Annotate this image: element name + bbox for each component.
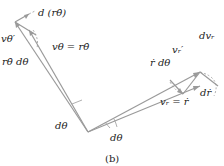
label-v-theta-eq: vθ = rθ̇ bbox=[52, 42, 89, 52]
v-theta-prime-vector bbox=[15, 22, 88, 132]
label-dtheta-right: dθ bbox=[110, 133, 122, 143]
label-dtheta-left: dθ bbox=[55, 121, 67, 131]
label-d-r-theta-dot: d (rθ̇) bbox=[38, 8, 66, 18]
label-r-theta-dot-dtheta: rθ̇ dθ bbox=[2, 57, 28, 67]
label-d-r-dot: dṙ bbox=[200, 88, 211, 98]
figure-caption: (b) bbox=[105, 153, 119, 164]
label-r-dot-dtheta: ṙ dθ bbox=[150, 58, 170, 68]
label-v-r-prime: vᵣ′ bbox=[172, 45, 183, 55]
d-r-dot-vector bbox=[183, 72, 200, 94]
label-v-r-eq: vᵣ = ṙ bbox=[160, 97, 189, 107]
label-v-theta-prime: vθ′ bbox=[1, 34, 15, 44]
label-d-v-r: dvᵣ bbox=[199, 31, 215, 41]
